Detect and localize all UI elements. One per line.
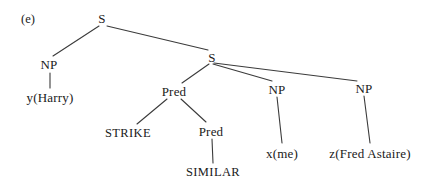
tree-node-s_inner: S	[208, 51, 215, 64]
tree-node-pred_1: Pred	[162, 85, 187, 98]
tree-node-strike: STRIKE	[105, 127, 151, 140]
syntax-tree-figure: (e) SNPy(Harry)SPredSTRIKEPredSIMILARNPx…	[0, 0, 429, 190]
tree-node-np_left: NP	[40, 58, 57, 71]
tree-edge-pred_1-to-strike	[137, 99, 167, 124]
tree-edge-s_root-to-np_left	[53, 26, 99, 56]
tree-node-similar: SIMILAR	[186, 166, 240, 179]
tree-edge-s_root-to-s_inner	[107, 26, 208, 50]
tree-node-z_fred: z(Fred Astaire)	[329, 147, 410, 160]
tree-node-s_root: S	[98, 12, 105, 25]
tree-edge-s_inner-to-np_right	[214, 63, 357, 81]
tree-node-pred_2: Pred	[199, 125, 224, 138]
tree-node-y_harry: y(Harry)	[26, 91, 73, 104]
tree-edge-pred_1-to-pred_2	[181, 99, 206, 122]
tree-edge-np_mid-to-x_me	[277, 97, 282, 143]
tree-node-x_me: x(me)	[266, 147, 298, 160]
tree-node-np_right: NP	[355, 82, 372, 95]
tree-edge-pred_2-to-similar	[212, 139, 213, 163]
tree-node-np_mid: NP	[268, 83, 285, 96]
tree-edge-np_right-to-z_fred	[364, 96, 370, 143]
tree-edge-s_inner-to-pred_1	[182, 64, 209, 83]
